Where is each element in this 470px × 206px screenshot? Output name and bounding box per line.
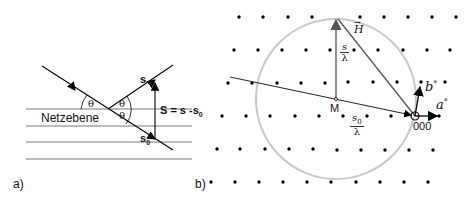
s-label: s <box>140 74 146 85</box>
panel-a-rays <box>42 65 173 150</box>
reciprocal-lattice-points <box>209 15 457 183</box>
scattering-vector-equation: S = s -s0 <box>160 105 203 118</box>
net-plane-label: Netzebene <box>41 112 99 124</box>
s0-label: s0 <box>140 133 150 146</box>
H-vector <box>338 19 415 116</box>
s-over-lambda-label: s λ <box>340 42 349 63</box>
panel-b-label: b) <box>195 178 206 190</box>
M-point <box>335 98 338 101</box>
M-label: M <box>330 103 339 114</box>
theta-up-label: θ <box>119 99 125 109</box>
origin-label: 000 <box>413 121 431 132</box>
panel-a-label: a) <box>13 178 24 190</box>
theta-in-label: θ <box>88 99 94 109</box>
theta-down-label: θ <box>119 111 125 121</box>
b-star-label: b* <box>425 80 437 93</box>
a-star-label: a* <box>436 98 448 111</box>
diagram-canvas <box>0 0 470 206</box>
s0-over-lambda-label: s0 λ <box>350 113 364 137</box>
